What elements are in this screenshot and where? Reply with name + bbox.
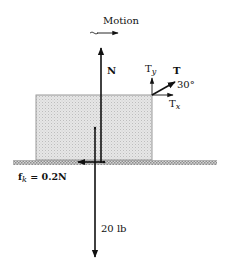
normal-force-label: N [107, 66, 116, 76]
ground-surface [13, 160, 217, 165]
motion-label: Motion [103, 16, 139, 26]
weight-label: 20 lb [101, 224, 127, 234]
tension-y-label: Ty [145, 64, 156, 76]
tension-y-subscript: y [152, 67, 157, 76]
friction-value: = 0.2N [27, 171, 67, 182]
tension-x-label: Tx [169, 99, 180, 111]
tension-x-subscript: x [176, 102, 181, 111]
tension-label: T [173, 66, 180, 76]
motion-arrow-icon [90, 32, 118, 34]
tension-arrow [152, 82, 175, 95]
tension-y-main: T [145, 63, 152, 74]
friction-label: fk = 0.2N [18, 172, 67, 184]
tension-x-main: T [169, 98, 176, 109]
angle-label: 30° [177, 80, 195, 90]
